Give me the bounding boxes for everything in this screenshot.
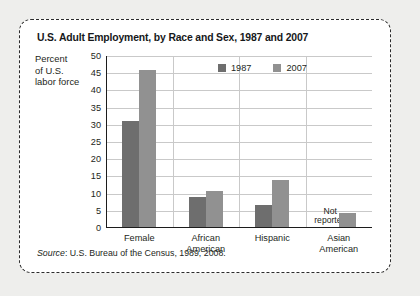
legend-label-1987: 1987 xyxy=(231,63,251,73)
y-axis-tick-label: 35 xyxy=(91,103,101,113)
source-text: : U.S. Bureau of the Census, 1989, 2008. xyxy=(65,248,226,258)
source-note: Source: U.S. Bureau of the Census, 1989,… xyxy=(37,248,226,258)
y-axis-line xyxy=(106,56,107,228)
y-axis-tick-label: 0 xyxy=(96,223,101,233)
y-axis-tick-label: 20 xyxy=(91,154,101,164)
source-label: Source xyxy=(37,248,65,258)
chart-plot-area: 05101520253035404550 Notreported 1987 20… xyxy=(106,56,372,228)
y-axis-title-line-2: of U.S. xyxy=(35,65,97,77)
legend-swatch-1987 xyxy=(218,64,226,72)
bar-2007-female xyxy=(139,70,156,228)
y-axis-tick-label: 10 xyxy=(91,189,101,199)
category-label-asian-american: AsianAmerican xyxy=(294,233,384,255)
y-axis-tick-label: 30 xyxy=(91,120,101,130)
y-axis-tick-label: 40 xyxy=(91,85,101,95)
bar-1987-hispanic xyxy=(255,205,272,228)
legend-label-2007: 2007 xyxy=(286,63,306,73)
bar-1987-african-american xyxy=(189,197,206,228)
bar-2007-african-american xyxy=(206,191,223,228)
y-axis-tick-label: 15 xyxy=(91,171,101,181)
y-axis-title-line-3: labor force xyxy=(35,76,97,88)
legend-swatch-2007 xyxy=(273,64,281,72)
bar-2007-hispanic xyxy=(272,180,289,228)
category-label-line: Asian xyxy=(294,233,384,244)
y-axis-tick-label: 25 xyxy=(91,137,101,147)
legend-item-2007: 2007 xyxy=(273,63,306,73)
chart-legend: 1987 2007 xyxy=(218,63,307,73)
y-axis-tick-label: 50 xyxy=(91,51,101,61)
figure-frame: U.S. Adult Employment, by Race and Sex, … xyxy=(19,19,391,273)
y-axis-title-line-1: Percent xyxy=(35,53,97,65)
legend-item-1987: 1987 xyxy=(218,63,251,73)
y-axis-tick-label: 45 xyxy=(91,68,101,78)
category-label-line: American xyxy=(294,244,384,255)
x-axis-line xyxy=(106,227,372,228)
figure-title: U.S. Adult Employment, by Race and Sex, … xyxy=(37,32,308,43)
bar-1987-female xyxy=(122,121,139,228)
y-axis-tick-label: 5 xyxy=(96,206,101,216)
bar-series: Notreported xyxy=(106,56,372,228)
y-axis-title: Percent of U.S. labor force xyxy=(35,53,97,88)
